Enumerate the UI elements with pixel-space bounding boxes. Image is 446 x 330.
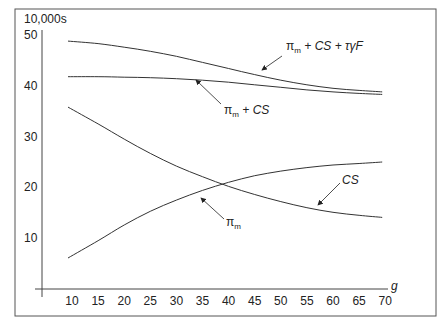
annotation-mid-curve: πm + CS: [196, 80, 269, 119]
arrow-icon: [201, 198, 224, 219]
arrow-icon: [318, 183, 340, 205]
y-tick-label: 30: [24, 130, 38, 144]
x-tick-label: 30: [170, 294, 184, 308]
x-tick-label: 40: [222, 294, 236, 308]
x-tick-label: 65: [352, 294, 366, 308]
svg-text:πm + CS + τγF: πm + CS + τγF: [286, 39, 363, 55]
y-tick-label: 20: [24, 180, 38, 194]
annotation-cs: CS: [318, 173, 359, 205]
y-tick-label: 10: [24, 231, 38, 245]
svg-text:CS: CS: [342, 173, 359, 187]
series-line-1: [68, 77, 382, 95]
y-axis-unit-label: 10,000s: [24, 12, 67, 26]
y-tick-label: 40: [24, 79, 38, 93]
series-line-3: [68, 162, 382, 258]
x-axis-label: g: [391, 279, 398, 293]
annotation-pi-m: πm: [201, 198, 241, 231]
svg-text:πm + CS: πm + CS: [224, 103, 269, 119]
x-tick-label: 45: [248, 294, 262, 308]
svg-text:πm: πm: [226, 215, 241, 231]
x-tick-label: 10: [65, 294, 79, 308]
x-tick-label: 50: [274, 294, 288, 308]
x-tick-label: 60: [326, 294, 340, 308]
x-tick-labels: 10152025303540455055606570: [65, 294, 392, 308]
y-tick-labels: 1020304050: [24, 28, 38, 245]
x-tick-label: 35: [196, 294, 210, 308]
y-tick-label: 50: [24, 28, 38, 42]
x-tick-label: 70: [379, 294, 393, 308]
x-tick-label: 20: [118, 294, 132, 308]
x-tick-label: 25: [144, 294, 158, 308]
x-tick-label: 55: [300, 294, 314, 308]
arrow-icon: [262, 56, 282, 70]
arrow-icon: [196, 80, 221, 104]
annotation-top-curve: πm + CS + τγF: [262, 39, 363, 70]
chart-figure: 10,000s g 1020304050 1015202530354045505…: [0, 0, 446, 330]
x-tick-label: 15: [91, 294, 105, 308]
series-line-2: [68, 107, 382, 217]
